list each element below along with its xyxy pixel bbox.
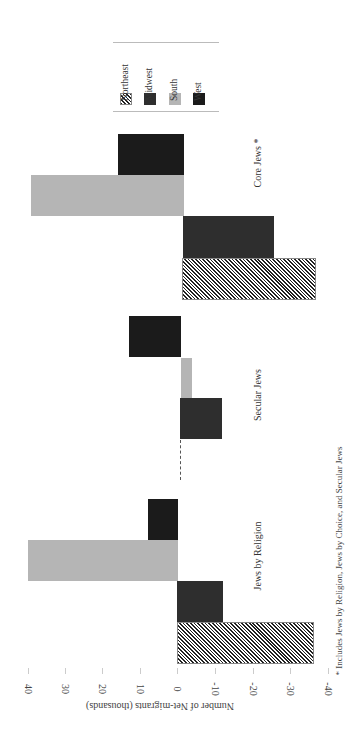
legend-item-midwest: Midwest [139, 43, 163, 111]
bar-core-midwest [183, 216, 274, 258]
bar-core-west [118, 134, 184, 175]
tick-mark [65, 668, 66, 674]
bar-religion-west [148, 499, 178, 540]
bar-secular-west [129, 316, 181, 357]
tick-mark [215, 668, 216, 674]
legend-item-west: West [188, 43, 212, 111]
legend-label: South [169, 79, 179, 101]
legend-label: Northeast [120, 64, 130, 101]
y-axis-title: Number of Net-migrants (thousands) [70, 700, 250, 712]
bar-secular-midwest [180, 398, 222, 439]
tick-mark [102, 668, 103, 674]
tick-mark [290, 668, 291, 674]
bar-chart: Northeast Midwest South West Core Jews *… [0, 0, 364, 740]
tick-mark [328, 668, 329, 674]
legend-item-south: South [164, 43, 188, 111]
tick-label: -10 [209, 677, 221, 701]
legend-item-northeast: Northeast [115, 43, 139, 111]
bar-religion-northeast [177, 622, 314, 664]
tick-label: 0 [171, 677, 183, 701]
tick-label: -40 [322, 677, 334, 701]
bar-religion-south [28, 540, 178, 581]
group-label-jews-by-religion: Jews by Religion [252, 511, 264, 601]
tick-label: 30 [59, 677, 71, 701]
bar-religion-midwest [177, 581, 223, 622]
tick-mark [253, 668, 254, 674]
legend-label: West [193, 82, 203, 101]
tick-label: 10 [134, 677, 146, 701]
tick-mark [28, 668, 29, 674]
group-label-core-jews: Core Jews * [252, 123, 264, 203]
bar-core-south [31, 175, 184, 216]
tick-mark [177, 668, 178, 674]
legend: Northeast Midwest South West [113, 42, 219, 112]
tick-label: 40 [22, 677, 34, 701]
bar-core-northeast [182, 258, 316, 300]
group-label-secular-jews: Secular Jews [252, 355, 264, 435]
tick-label: 20 [96, 677, 108, 701]
legend-label: Midwest [144, 68, 154, 101]
tick-mark [140, 668, 141, 674]
bar-secular-northeast [180, 440, 181, 480]
tick-label: -30 [284, 677, 296, 701]
tick-label: -20 [247, 677, 259, 701]
bar-secular-south [181, 358, 192, 398]
footnote: * Includes Jews by Religion, Jews by Cho… [334, 411, 346, 711]
